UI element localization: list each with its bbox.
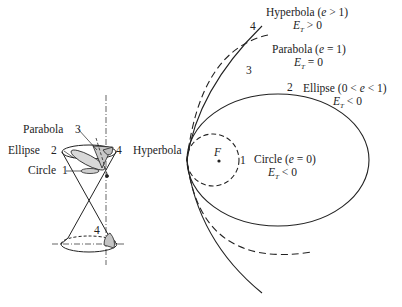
hyperbola-lower-section <box>104 233 115 248</box>
orbit-number-circle: 1 <box>240 154 246 166</box>
conic-sections-diagram: Parabola 3 Ellipse 2 Circle 1 4 Hyperbol… <box>0 0 402 307</box>
cone-label-hyperbola: Hyperbola <box>133 144 182 157</box>
parabola-energy: ET = 0 <box>293 56 323 71</box>
cone-label-ellipse: Ellipse <box>8 144 40 157</box>
cone-label-parabola-number: 3 <box>75 123 81 135</box>
focus-point <box>217 159 220 162</box>
focus-label: F <box>213 146 222 158</box>
hyperbola-title: Hyperbola (e > 1) <box>266 6 348 19</box>
orbit-number-parabola: 3 <box>246 64 252 76</box>
ellipse-energy: ET < 0 <box>332 95 362 110</box>
cone-sections <box>69 138 115 248</box>
circle-energy: ET < 0 <box>267 166 297 181</box>
cone-label-circle: Circle <box>28 164 56 176</box>
orbit-number-hyperbola: 4 <box>250 20 256 32</box>
cone-label-parabola: Parabola <box>23 123 63 135</box>
circle-title: Circle (e = 0) <box>254 153 316 166</box>
cone-label-ellipse-number: 2 <box>51 144 57 156</box>
orbit-number-ellipse: 2 <box>287 81 293 93</box>
ellipse-title: Ellipse (0 < e < 1) <box>303 82 387 95</box>
parabola-title: Parabola (e = 1) <box>272 43 346 56</box>
cone-label-hyperbola-lower-number: 4 <box>94 224 100 236</box>
circle-orbit <box>187 134 239 186</box>
plane-marker-dot <box>106 175 109 178</box>
cone-label-hyperbola-number: 4 <box>116 144 122 156</box>
cone-label-circle-number: 1 <box>62 164 68 176</box>
hyperbola-energy: ET > 0 <box>292 19 322 34</box>
